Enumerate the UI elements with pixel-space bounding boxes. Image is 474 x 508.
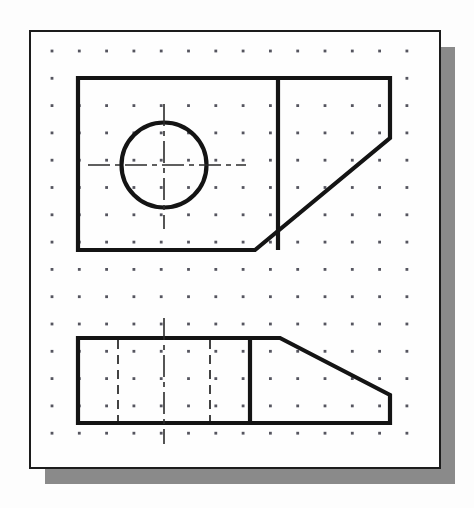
grid-dot <box>351 432 354 435</box>
grid-dot <box>242 104 245 107</box>
grid-dot <box>242 159 245 162</box>
grid-dot <box>187 104 190 107</box>
grid-dot <box>105 213 108 216</box>
grid-dot <box>269 132 272 135</box>
grid-dot <box>324 377 327 380</box>
grid-dot <box>351 323 354 326</box>
grid-dot <box>269 295 272 298</box>
grid-dot <box>296 405 299 408</box>
grid-dot <box>378 241 381 244</box>
grid-dot <box>214 50 217 53</box>
grid-dot <box>378 186 381 189</box>
grid-dot <box>378 50 381 53</box>
grid-dot <box>160 323 163 326</box>
grid-dot <box>406 377 409 380</box>
grid-dot <box>51 186 54 189</box>
grid-dot <box>214 159 217 162</box>
grid-dot <box>242 268 245 271</box>
grid-dot <box>187 213 190 216</box>
grid-dot <box>51 268 54 271</box>
grid-dot <box>406 241 409 244</box>
grid-dot <box>351 241 354 244</box>
grid-dot <box>324 241 327 244</box>
grid-dot <box>133 186 136 189</box>
grid-dot <box>105 241 108 244</box>
grid-dot <box>133 323 136 326</box>
grid-dot <box>78 268 81 271</box>
grid-dot <box>378 350 381 353</box>
grid-dot <box>269 159 272 162</box>
grid-dot <box>214 268 217 271</box>
grid-dot <box>351 295 354 298</box>
grid-dot <box>324 104 327 107</box>
grid-dot <box>78 432 81 435</box>
grid-dot <box>105 295 108 298</box>
grid-dot <box>214 432 217 435</box>
grid-dot <box>351 104 354 107</box>
grid-dot <box>160 213 163 216</box>
grid-dot <box>296 50 299 53</box>
grid-dot <box>51 350 54 353</box>
grid-dot <box>324 159 327 162</box>
grid-dot <box>160 295 163 298</box>
grid-dot <box>214 104 217 107</box>
grid-dot <box>214 323 217 326</box>
grid-dot <box>51 323 54 326</box>
grid-dot <box>406 213 409 216</box>
technical-drawing <box>0 0 474 508</box>
grid-dot <box>269 213 272 216</box>
grid-dot <box>51 50 54 53</box>
grid-dot <box>160 432 163 435</box>
grid-dot <box>296 350 299 353</box>
grid-dot <box>105 132 108 135</box>
grid-dot <box>324 405 327 408</box>
grid-dot <box>242 405 245 408</box>
grid-dot <box>214 295 217 298</box>
grid-dot <box>78 50 81 53</box>
grid-dot <box>242 432 245 435</box>
grid-dot <box>351 350 354 353</box>
grid-dot <box>51 104 54 107</box>
grid-dot <box>187 432 190 435</box>
grid-dot <box>133 213 136 216</box>
grid-dot <box>51 132 54 135</box>
grid-dot <box>133 350 136 353</box>
grid-dot <box>324 132 327 135</box>
grid-dot <box>378 323 381 326</box>
grid-dot <box>296 268 299 271</box>
grid-dot <box>351 405 354 408</box>
grid-dot <box>51 213 54 216</box>
grid-dot <box>269 350 272 353</box>
grid-dot <box>51 405 54 408</box>
grid-dot <box>324 323 327 326</box>
grid-dot <box>160 268 163 271</box>
grid-dot <box>242 377 245 380</box>
grid-dot <box>214 405 217 408</box>
grid-dot <box>133 241 136 244</box>
grid-dot <box>378 159 381 162</box>
grid-dot <box>269 268 272 271</box>
grid-dot <box>78 323 81 326</box>
grid-dot <box>269 405 272 408</box>
grid-dot <box>105 350 108 353</box>
grid-dot <box>214 350 217 353</box>
grid-dot <box>242 213 245 216</box>
grid-dot <box>296 323 299 326</box>
grid-dot <box>187 323 190 326</box>
grid-dot <box>269 241 272 244</box>
grid-dot <box>51 432 54 435</box>
grid-dot <box>296 159 299 162</box>
grid-dot <box>133 268 136 271</box>
grid-dot <box>269 377 272 380</box>
grid-dot <box>160 186 163 189</box>
grid-dot <box>51 241 54 244</box>
grid-dot <box>378 268 381 271</box>
grid-dot <box>351 186 354 189</box>
grid-dot <box>105 186 108 189</box>
grid-dot <box>160 377 163 380</box>
grid-dot <box>296 377 299 380</box>
grid-dot <box>160 241 163 244</box>
grid-dot <box>105 323 108 326</box>
grid-dot <box>351 213 354 216</box>
grid-dot <box>378 213 381 216</box>
